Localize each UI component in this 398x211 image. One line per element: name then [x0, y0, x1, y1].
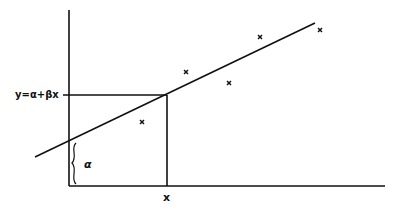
data-point [258, 35, 262, 39]
data-point [227, 81, 231, 85]
data-point [140, 120, 144, 124]
equation-label: y=α+βx [15, 89, 59, 100]
data-point [184, 70, 188, 74]
regression-diagram [0, 0, 398, 211]
data-point [318, 28, 322, 32]
x-value-label: x [163, 191, 170, 204]
regression-line [35, 23, 315, 157]
intercept-brace [72, 143, 76, 184]
intercept-label: α [84, 158, 92, 171]
